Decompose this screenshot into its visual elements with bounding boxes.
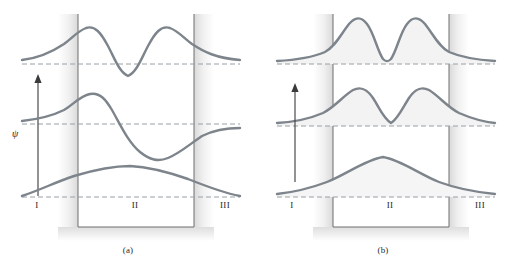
panel-a-caption: (a) [0, 245, 256, 255]
panel-a: ψ I II III (a) [0, 0, 256, 273]
region-label-I-b: I [275, 200, 309, 210]
density-axis-arrowhead [291, 83, 298, 92]
region-label-II-a: II [118, 200, 152, 210]
well-floor-shadow [58, 227, 214, 241]
region-label-I-a: I [20, 200, 54, 210]
finite-well-figure: ψ I II III (a) [0, 0, 511, 273]
region-label-II-b: II [373, 200, 407, 210]
region-label-III-b: III [463, 200, 497, 210]
region-label-III-a: III [208, 200, 242, 210]
panel-a-canvas [0, 0, 256, 273]
panel-b-caption: (b) [255, 245, 511, 255]
panel-a-axis-label: ψ [12, 128, 18, 139]
well-floor-shadow [313, 227, 469, 241]
panel-b-canvas [255, 0, 511, 273]
psi-axis-arrowhead [34, 74, 41, 83]
potential-well-outline [78, 14, 194, 227]
panel-b: |ψ|2 I II III (b) [255, 0, 511, 273]
